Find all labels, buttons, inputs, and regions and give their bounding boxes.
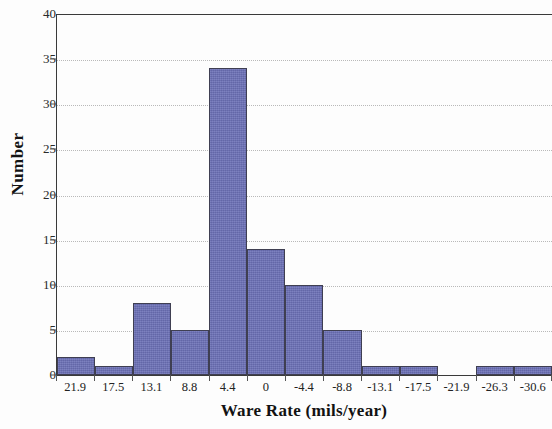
y-tick-label: 15 [16, 232, 56, 248]
x-tick-label: -21.9 [437, 380, 475, 395]
bar [362, 366, 400, 375]
bar-slot [362, 15, 400, 375]
bar-slot [133, 15, 171, 375]
x-tick-label: 4.4 [209, 380, 247, 395]
plot-area [56, 14, 552, 375]
y-tick-label: 35 [16, 51, 56, 67]
bar-slot [285, 15, 323, 375]
bar [57, 357, 95, 375]
x-tick-label: 0 [247, 380, 285, 395]
x-tick-label: -4.4 [285, 380, 323, 395]
x-tick-label: -17.5 [399, 380, 437, 395]
x-tick-label: -30.6 [514, 380, 552, 395]
y-tick-label: 10 [16, 277, 56, 293]
bar-slot [95, 15, 133, 375]
x-axis-tick-labels: 21.917.513.18.84.40-4.4-8.8-13.1-17.5-21… [56, 380, 552, 395]
bar [400, 366, 438, 375]
bar [133, 303, 171, 375]
bar [476, 366, 514, 375]
bar [247, 249, 285, 375]
bar [514, 366, 552, 375]
x-tick-label: -26.3 [476, 380, 514, 395]
x-tick-label: -8.8 [323, 380, 361, 395]
bar-slot [514, 15, 552, 375]
y-tick-label: 0 [16, 367, 56, 383]
bar-series [57, 15, 552, 375]
bar-slot [209, 15, 247, 375]
x-axis-title: Ware Rate (mils/year) [56, 401, 552, 421]
bar [285, 285, 323, 375]
bar-slot [400, 15, 438, 375]
bar-slot [476, 15, 514, 375]
bar-slot [438, 15, 476, 375]
y-axis-title: Number [8, 104, 28, 224]
bar [95, 366, 133, 375]
bar [209, 68, 247, 375]
y-tick-label: 5 [16, 322, 56, 338]
x-tick-label: 21.9 [56, 380, 94, 395]
bar [323, 330, 361, 375]
bar [171, 330, 209, 375]
x-tick-label: 13.1 [132, 380, 170, 395]
histogram-chart: Number 0510152025303540 21.917.513.18.84… [0, 0, 552, 429]
bar-slot [323, 15, 361, 375]
y-tick-label: 40 [16, 6, 56, 22]
x-tick-label: 8.8 [170, 380, 208, 395]
bar-slot [57, 15, 95, 375]
bar-slot [247, 15, 285, 375]
x-tick-label: 17.5 [94, 380, 132, 395]
x-tick-label: -13.1 [361, 380, 399, 395]
bar-slot [171, 15, 209, 375]
